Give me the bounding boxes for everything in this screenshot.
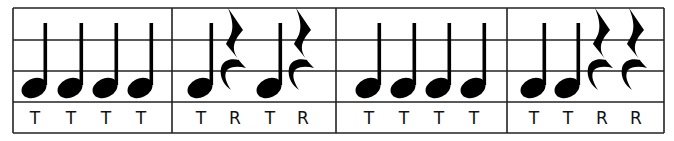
- quarter-rest-icon: [588, 8, 613, 90]
- rhythm-grid: TTTTTRTRTTTTTTRR: [0, 0, 674, 141]
- syllable-label: T: [562, 108, 574, 128]
- syllable-label: R: [297, 108, 309, 128]
- syllable-label: T: [468, 108, 480, 128]
- syllable-label: T: [29, 108, 41, 128]
- quarter-note-icon: [124, 23, 156, 102]
- quarter-note-icon: [551, 23, 583, 102]
- quarter-note-icon: [89, 23, 121, 102]
- quarter-note-icon: [387, 23, 419, 102]
- syllable-label: T: [363, 108, 375, 128]
- syllable-label: T: [264, 108, 276, 128]
- quarter-rest-icon: [289, 8, 314, 90]
- quarter-note-icon: [352, 23, 384, 102]
- syllable-label: R: [630, 108, 642, 128]
- syllable-label: R: [596, 108, 608, 128]
- rhythm-symbols: [18, 8, 647, 102]
- quarter-rest-icon: [622, 8, 647, 90]
- quarter-note-icon: [18, 23, 50, 102]
- quarter-note-icon: [54, 23, 86, 102]
- quarter-note-icon: [184, 23, 216, 102]
- syllable-label: T: [135, 108, 147, 128]
- syllable-label: T: [195, 108, 207, 128]
- quarter-note-icon: [422, 23, 454, 102]
- quarter-note-icon: [253, 23, 285, 102]
- syllable-label: R: [229, 108, 241, 128]
- syllable-label: T: [528, 108, 540, 128]
- syllable-label: T: [433, 108, 445, 128]
- quarter-rest-icon: [221, 8, 246, 90]
- syllable-label: T: [65, 108, 77, 128]
- syllable-label: T: [398, 108, 410, 128]
- quarter-note-icon: [457, 23, 489, 102]
- syllable-label: T: [100, 108, 112, 128]
- quarter-note-icon: [517, 23, 549, 102]
